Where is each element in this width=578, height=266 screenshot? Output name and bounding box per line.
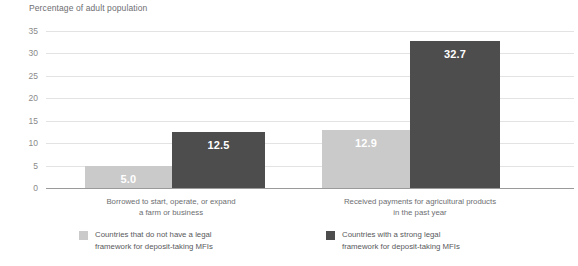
category-label-1-line-2: in the past year	[300, 207, 540, 218]
bar-value-group2-light: 12.9	[322, 137, 410, 149]
legend-swatch-light-icon	[79, 231, 88, 240]
legend-item-no-legal-framework[interactable]: Countries that do not have a legal frame…	[79, 229, 309, 252]
bar-group1-light[interactable]: 5.0	[85, 166, 172, 188]
y-tick-25: 25	[0, 72, 38, 81]
category-label-0-line-1: Borrowed to start, operate, or expand	[62, 196, 280, 207]
category-label-0-line-2: a farm or business	[62, 207, 280, 218]
y-axis-title: Percentage of adult population	[29, 3, 147, 13]
bar-value-group2-dark: 32.7	[410, 48, 500, 60]
bar-group1-dark[interactable]: 12.5	[172, 132, 265, 188]
gridline-35	[46, 31, 574, 32]
y-tick-35: 35	[0, 27, 38, 36]
legend-swatch-dark-icon	[326, 231, 335, 240]
bar-value-group1-dark: 12.5	[172, 139, 265, 151]
bar-value-group1-light: 5.0	[85, 173, 172, 185]
gridline-0-baseline	[46, 188, 574, 189]
category-label-0: Borrowed to start, operate, or expand a …	[62, 196, 280, 218]
legend-label-0-line-2: framework for deposit-taking MFIs	[95, 242, 213, 251]
bar-group2-dark[interactable]: 32.7	[410, 41, 500, 188]
category-label-1: Received payments for agricultural produ…	[300, 196, 540, 218]
y-tick-5: 5	[0, 162, 38, 171]
y-tick-0: 0	[0, 184, 38, 193]
legend-label-0-line-1: Countries that do not have a legal	[95, 230, 212, 239]
y-tick-30: 30	[0, 49, 38, 58]
legend-label-1-line-1: Countries with a strong legal	[342, 230, 440, 239]
legend-item-strong-legal-framework[interactable]: Countries with a strong legal framework …	[326, 229, 556, 252]
legend-label-1: Countries with a strong legal framework …	[342, 229, 556, 252]
plot-area: 35 30 25 20 15 10 5 0 5.0 12.5 12.9 32.7	[46, 31, 574, 188]
y-tick-10: 10	[0, 139, 38, 148]
legend-label-0: Countries that do not have a legal frame…	[95, 229, 309, 252]
bar-group2-light[interactable]: 12.9	[322, 130, 410, 188]
legend-label-1-line-2: framework for deposit-taking MFIs	[342, 242, 460, 251]
category-label-1-line-1: Received payments for agricultural produ…	[300, 196, 540, 207]
y-tick-20: 20	[0, 94, 38, 103]
y-tick-15: 15	[0, 117, 38, 126]
bar-chart: Percentage of adult population 35 30 25 …	[0, 0, 578, 266]
